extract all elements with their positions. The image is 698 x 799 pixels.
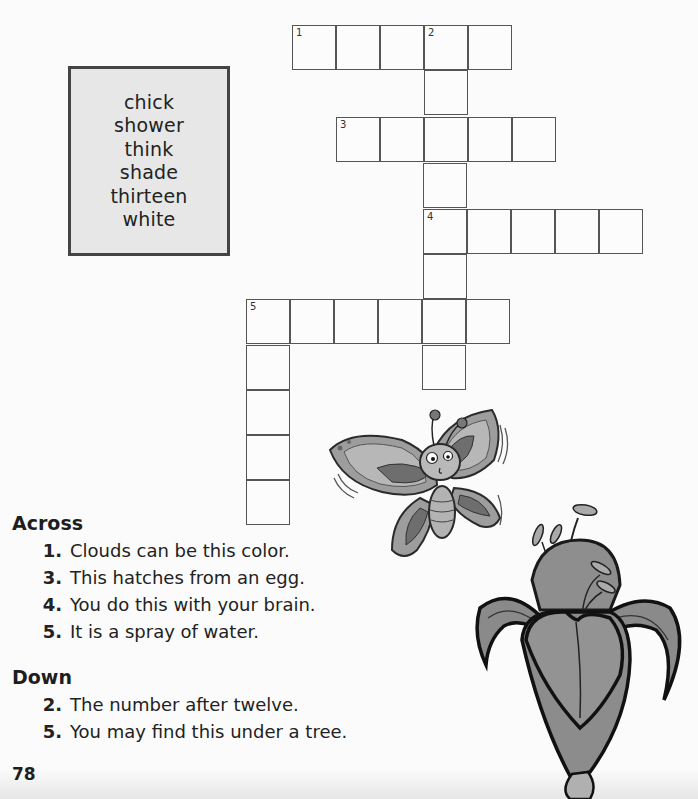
across-clue-3: 3.This hatches from an egg. [34,567,305,588]
crossword-cell[interactable] [423,254,467,299]
crossword-cell[interactable] [511,209,555,254]
down-clue-2: 2.The number after twelve. [34,694,299,715]
word-bank-word: shade [120,161,178,185]
clue-text: It is a spray of water. [70,621,259,642]
crossword-cell[interactable] [422,345,466,390]
crossword-cell[interactable]: 1 [292,25,336,70]
clue-number: 5. [34,721,62,742]
crossword-cell[interactable] [378,299,422,344]
clue-text: Clouds can be this color. [70,540,290,561]
clue-number: 3. [34,567,62,588]
crossword-cell[interactable] [467,209,511,254]
crossword-cell[interactable] [512,117,556,162]
crossword-cell[interactable] [336,25,380,70]
crossword-cell[interactable] [599,209,643,254]
across-clue-4: 4.You do this with your brain. [34,594,316,615]
clue-number: 1. [34,540,62,561]
crossword-cell[interactable] [468,25,512,70]
crossword-cell[interactable]: 4 [423,209,467,254]
crossword-cell[interactable] [424,117,468,162]
word-bank-word: thirteen [110,185,187,209]
word-bank-word: shower [114,114,184,138]
down-clue-5: 5.You may find this under a tree. [34,721,347,742]
crossword-cell[interactable]: 3 [336,117,380,162]
crossword-cell[interactable] [246,390,290,435]
clue-number: 5. [34,621,62,642]
cell-clue-number: 3 [340,119,346,130]
crossword-cell[interactable] [424,70,468,115]
word-bank-word: think [125,138,174,162]
crossword-cell[interactable] [246,435,290,480]
crossword-cell[interactable] [422,299,466,344]
cell-clue-number: 2 [428,27,434,38]
crossword-cell[interactable]: 2 [424,25,468,70]
clue-text: The number after twelve. [70,694,299,715]
crossword-cell[interactable] [246,480,290,525]
crossword-cell[interactable]: 5 [246,299,290,344]
crossword-cell[interactable] [334,299,378,344]
across-clue-5: 5.It is a spray of water. [34,621,259,642]
clue-number: 2. [34,694,62,715]
word-bank-word: chick [124,91,174,115]
word-bank-word: white [123,208,176,232]
crossword-cell[interactable] [380,117,424,162]
crossword-cell[interactable] [466,299,510,344]
across-clue-1: 1.Clouds can be this color. [34,540,290,561]
across-heading: Across [12,512,83,534]
clue-number: 4. [34,594,62,615]
crossword-cell[interactable] [555,209,599,254]
crossword-cell[interactable] [380,25,424,70]
clue-text: You do this with your brain. [70,594,316,615]
word-bank: chick shower think shade thirteen white [68,66,230,256]
crossword-cell[interactable] [468,117,512,162]
clue-text: You may find this under a tree. [70,721,347,742]
cell-clue-number: 4 [427,211,433,222]
lily-flower-icon [470,490,698,799]
page-number: 78 [12,764,36,784]
cell-clue-number: 5 [250,301,256,312]
crossword-cell[interactable] [246,345,290,390]
clue-text: This hatches from an egg. [70,567,305,588]
cell-clue-number: 1 [296,27,302,38]
down-heading: Down [12,666,72,688]
crossword-cell[interactable] [423,163,467,208]
crossword-cell[interactable] [290,299,334,344]
